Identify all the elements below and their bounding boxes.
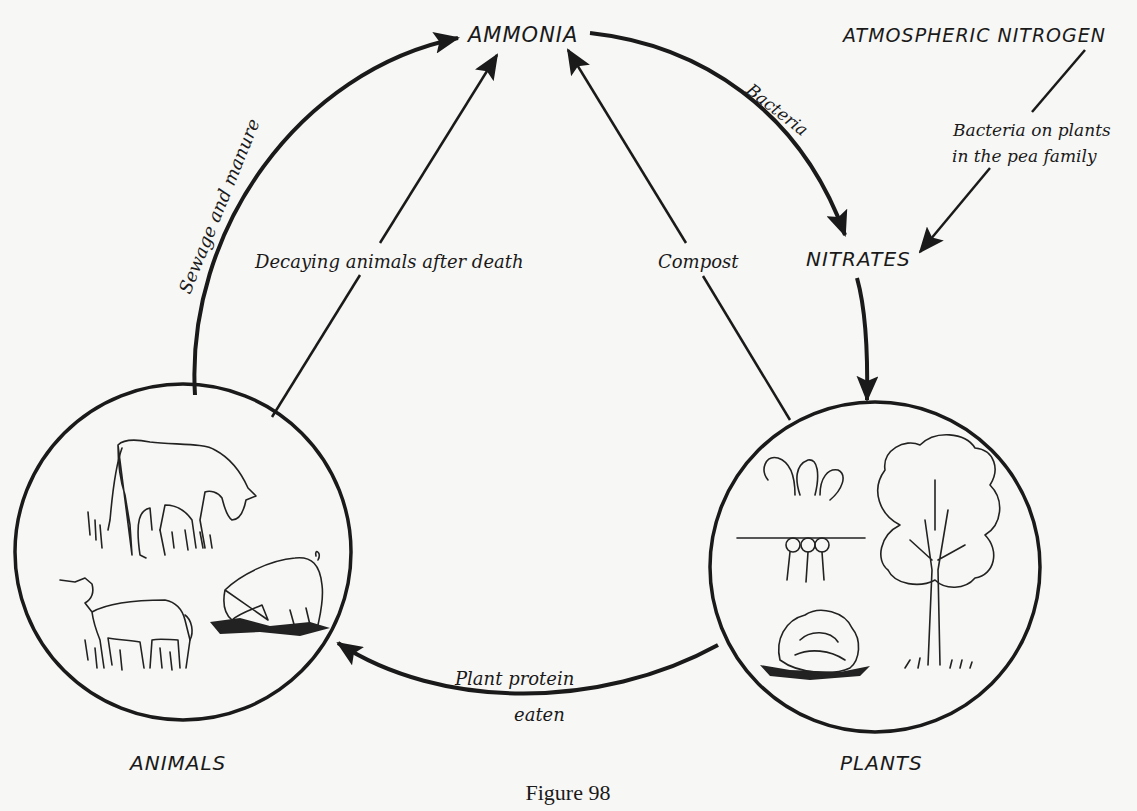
pea-bacteria-label-line2: in the pea family: [952, 146, 1097, 166]
pig-illustration: [210, 552, 330, 636]
nitrogen-cycle-diagram: AMMONIA ATMOSPHERIC NITROGEN NITRATES AN…: [0, 0, 1137, 811]
plant-protein-label-line1: Plant protein: [454, 668, 574, 689]
bacteria-arrow: [590, 33, 845, 235]
ammonia-node: AMMONIA: [466, 23, 578, 47]
cow-illustration: [88, 440, 256, 558]
nitrates-node: NITRATES: [806, 247, 911, 271]
decaying-arrow-upper: [380, 55, 497, 243]
decaying-label: Decaying animals after death: [254, 251, 524, 272]
pea-bacteria-arrow: [920, 168, 990, 252]
compost-arrow-upper: [568, 50, 686, 243]
figure-caption: Figure 98: [526, 780, 611, 805]
sewage-label: Sewage and manure: [174, 115, 263, 296]
tree-illustration: [878, 435, 1000, 668]
radishes-illustration: [737, 458, 865, 582]
plants-node-label: PLANTS: [840, 751, 923, 775]
animals-circle: [15, 384, 351, 720]
bacteria-label: Bacteria: [742, 79, 812, 140]
compost-arrow-lower: [703, 276, 790, 420]
nitrates-to-plants-arrow: [857, 278, 867, 400]
atmospheric-nitrogen-node: ATMOSPHERIC NITROGEN: [841, 24, 1106, 46]
atmospheric-line: [1032, 50, 1085, 112]
compost-label: Compost: [658, 251, 739, 272]
decaying-arrow-lower: [272, 275, 360, 417]
cabbage-illustration: [760, 610, 870, 680]
plants-circle: [710, 402, 1040, 732]
animals-node-label: ANIMALS: [128, 751, 226, 775]
pea-bacteria-label-line1: Bacteria on plants: [952, 120, 1111, 140]
sewage-arrow: [194, 38, 458, 395]
goat-illustration: [60, 578, 192, 670]
plant-protein-label-line2: eaten: [514, 704, 565, 725]
